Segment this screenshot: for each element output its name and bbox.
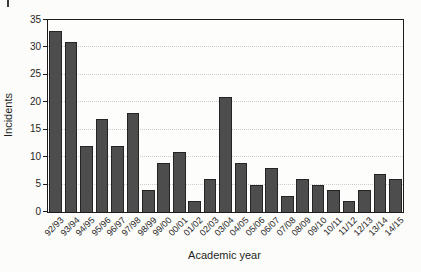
bar-95/96 xyxy=(96,119,109,212)
bar-07/08 xyxy=(281,196,294,212)
y-tick-label-35: 35 xyxy=(11,14,41,25)
bar-11/12 xyxy=(343,201,356,212)
bar-12/13 xyxy=(358,190,371,212)
y-tick-mark-10 xyxy=(43,156,47,157)
bar-96/97 xyxy=(111,146,124,212)
bar-93/94 xyxy=(65,42,78,212)
bar-98/99 xyxy=(142,190,155,212)
bar-01/02 xyxy=(188,201,201,212)
y-tick-mark-30 xyxy=(43,46,47,47)
y-tick-label-30: 30 xyxy=(11,41,41,52)
y-tick-label-10: 10 xyxy=(11,151,41,162)
bar-00/01 xyxy=(173,152,186,212)
bar-08/09 xyxy=(296,179,309,212)
gridline-30 xyxy=(48,46,403,47)
bar-94/95 xyxy=(80,146,93,212)
plot-area xyxy=(47,19,404,213)
bar-04/05 xyxy=(235,163,248,212)
bar-02/03 xyxy=(204,179,217,212)
y-tick-label-5: 5 xyxy=(11,178,41,189)
y-tick-mark-20 xyxy=(43,101,47,102)
bar-92/93 xyxy=(49,31,62,212)
x-axis-title: Academic year xyxy=(47,249,402,261)
bar-06/07 xyxy=(265,168,278,212)
y-tick-label-25: 25 xyxy=(11,68,41,79)
bar-14/15 xyxy=(389,179,402,212)
chart-figure: Incidents 05101520253035 92/9393/9494/95… xyxy=(0,0,421,272)
y-tick-label-20: 20 xyxy=(11,96,41,107)
y-tick-label-0: 0 xyxy=(11,206,41,217)
page-corner-mark xyxy=(7,0,9,7)
bar-10/11 xyxy=(327,190,340,212)
bar-09/10 xyxy=(312,185,325,212)
bar-03/04 xyxy=(219,97,232,212)
y-tick-mark-15 xyxy=(43,129,47,130)
bar-97/98 xyxy=(127,113,140,212)
y-tick-label-15: 15 xyxy=(11,123,41,134)
gridline-25 xyxy=(48,74,403,75)
y-tick-mark-35 xyxy=(43,19,47,20)
y-tick-mark-25 xyxy=(43,74,47,75)
bar-13/14 xyxy=(374,174,387,212)
bar-05/06 xyxy=(250,185,263,212)
y-axis-title: Incidents xyxy=(2,75,14,155)
y-tick-mark-0 xyxy=(43,211,47,212)
bar-99/00 xyxy=(157,163,170,212)
y-tick-mark-5 xyxy=(43,184,47,185)
